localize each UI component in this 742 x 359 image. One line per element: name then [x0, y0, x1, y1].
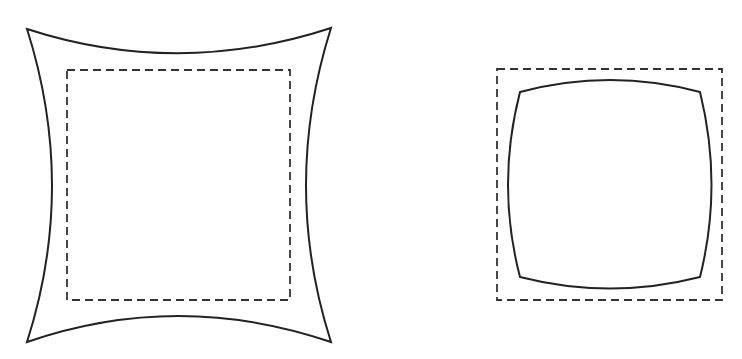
pincushion-reference-rect	[67, 70, 290, 300]
pincushion-figure	[27, 28, 331, 342]
barrel-distorted-shape	[508, 80, 712, 289]
pincushion-distorted-shape	[27, 28, 331, 342]
distortion-diagram	[0, 0, 742, 359]
barrel-figure	[497, 69, 722, 300]
barrel-reference-rect	[497, 69, 722, 300]
